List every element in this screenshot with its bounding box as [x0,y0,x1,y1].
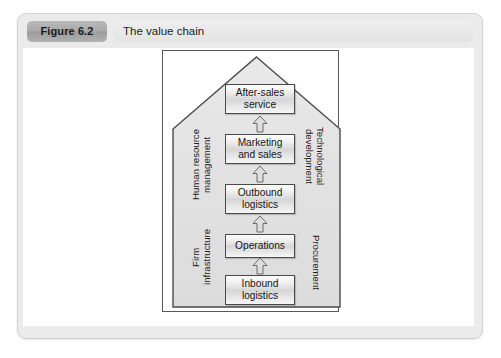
figure-number-badge: Figure 6.2 [27,21,107,42]
label-line: Technological [315,127,326,185]
primary-activity-marketing-and-sales: Marketing and sales [225,134,295,164]
figure-card: Figure 6.2 The value chain [17,13,483,339]
label-line: Firm [190,247,201,266]
box-line: After-sales [236,87,285,99]
label-line: development [304,129,315,184]
support-activity-procurement: Procurement [311,235,322,290]
support-activity-human-resource-management: Human resource management [190,129,212,200]
support-activity-firm-infrastructure: Firm infrastructure [190,229,212,285]
box-line: and sales [238,149,282,161]
box-line: Operations [235,240,285,252]
primary-activity-operations: Operations [225,234,295,258]
box-line: Outbound [238,187,283,199]
box-line: Inbound [242,278,279,290]
label-line: Human resource [190,129,201,200]
box-line: logistics [242,199,278,211]
flow-arrow-up-icon [252,257,268,275]
flow-arrow-up-icon [252,215,268,233]
value-chain-diagram: Human resource management Firm infrastru… [157,50,344,314]
label-line: infrastructure [201,229,212,285]
figure-content-panel: Human resource management Firm infrastru… [23,48,474,326]
figure-title: The value chain [113,21,473,42]
box-line: service [244,99,276,111]
primary-activity-outbound-logistics: Outbound logistics [225,184,295,214]
flow-arrow-up-icon [252,115,268,133]
figure-header: Figure 6.2 The value chain [27,21,473,42]
support-activity-technological-development: Technological development [304,127,326,185]
primary-activity-inbound-logistics: Inbound logistics [225,275,295,305]
label-line: management [201,136,212,192]
diagram-frame: Human resource management Firm infrastru… [162,50,339,312]
box-line: Marketing [238,137,283,149]
label-line: Procurement [311,235,322,290]
box-line: logistics [242,290,278,302]
primary-activity-after-sales-service: After-sales service [225,84,295,114]
flow-arrow-up-icon [252,165,268,183]
